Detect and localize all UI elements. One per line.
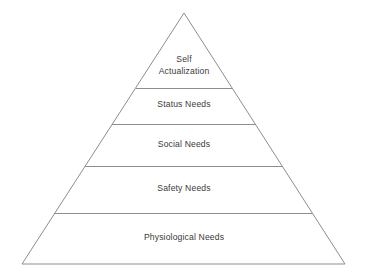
pyramid-diagram: Self Actualization Status Needs Social N… <box>0 0 368 278</box>
tier-label-line: Physiological Needs <box>0 232 368 244</box>
tier-label-social-needs: Social Needs <box>0 139 368 151</box>
tier-label-line: Safety Needs <box>0 183 368 195</box>
tier-label-physiological-needs: Physiological Needs <box>0 232 368 244</box>
tier-label-line: Self <box>0 54 368 66</box>
tier-label-line: Status Needs <box>0 99 368 111</box>
tier-label-safety-needs: Safety Needs <box>0 183 368 195</box>
tier-label-self-actualization: Self Actualization <box>0 54 368 77</box>
tier-label-line: Actualization <box>0 66 368 78</box>
tier-label-status-needs: Status Needs <box>0 99 368 111</box>
tier-label-line: Social Needs <box>0 139 368 151</box>
